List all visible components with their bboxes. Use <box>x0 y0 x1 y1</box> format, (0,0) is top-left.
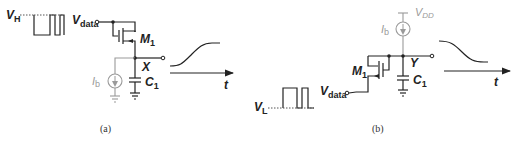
ground-icon <box>398 90 408 96</box>
vdata-terminal-b <box>345 91 349 95</box>
ib-label-a: Ib <box>92 75 100 89</box>
input-pulse-train-b <box>283 88 314 108</box>
m1-label-a: M1 <box>140 32 155 48</box>
vdata-terminal-a <box>95 20 99 24</box>
ground-icon <box>110 96 120 102</box>
rising-waveform <box>170 43 220 66</box>
time-label-b: t <box>494 75 499 89</box>
capacitor-c1-a <box>129 78 141 82</box>
output-terminal-a <box>161 56 165 60</box>
transistor-m1-a <box>119 28 135 58</box>
ground-icon <box>130 93 140 99</box>
falling-waveform <box>439 41 488 62</box>
ib-label-b: Ib <box>381 23 389 37</box>
vl-label: VL <box>254 100 268 116</box>
node-y-label: Y <box>410 56 419 70</box>
caption-a: (a) <box>100 123 111 135</box>
output-terminal-b <box>430 54 434 58</box>
circuit-diagram: VH Vdata M1 X <box>0 0 519 145</box>
vh-label: VH <box>6 8 21 24</box>
input-pulse-train <box>34 15 64 35</box>
vdata-label-b: Vdata <box>320 84 348 100</box>
caption-b: (b) <box>372 123 384 135</box>
figure-a: VH Vdata M1 X <box>6 8 233 135</box>
time-label-a: t <box>224 78 229 92</box>
capacitor-c1-b <box>397 76 409 80</box>
node-x-label: X <box>141 60 151 74</box>
m1-label-b: M1 <box>352 64 367 80</box>
vdd-label: VDD <box>415 6 434 20</box>
c1-label-b: C1 <box>413 73 427 89</box>
figure-b: VDD Ib Y M1 Vdata VL <box>254 6 510 135</box>
c1-label-a: C1 <box>145 75 159 91</box>
